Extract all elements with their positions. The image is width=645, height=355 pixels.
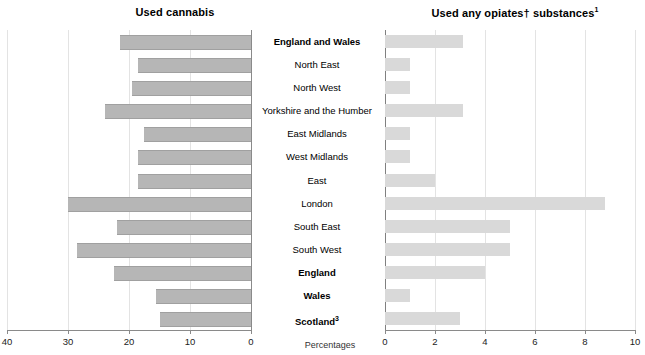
category-label: Yorkshire and the Humber xyxy=(253,105,381,116)
right-axis-tick-label: 0 xyxy=(370,336,400,347)
left-bar xyxy=(117,220,251,235)
left-gridline-20 xyxy=(129,30,130,330)
right-axis-tick-label: 6 xyxy=(520,336,550,347)
left-axis-tick-30 xyxy=(68,330,69,334)
left-axis-tick-label: 40 xyxy=(0,336,22,347)
right-axis-line xyxy=(385,330,635,331)
right-gridline-10 xyxy=(635,30,636,330)
right-bar xyxy=(385,243,510,256)
right-plot-area xyxy=(385,30,635,330)
right-axis-tick-label: 2 xyxy=(420,336,450,347)
right-bar xyxy=(385,58,410,71)
left-gridline-30 xyxy=(68,30,69,330)
left-axis-tick-10 xyxy=(190,330,191,334)
right-axis-tick-label: 4 xyxy=(470,336,500,347)
right-axis-tick-10 xyxy=(635,330,636,334)
right-bar xyxy=(385,81,410,94)
category-label-text: Yorkshire and the Humber xyxy=(262,105,372,116)
left-bar xyxy=(68,197,251,212)
right-panel-title-superscript: 1 xyxy=(594,6,598,13)
right-axis-tick-0 xyxy=(385,330,386,334)
category-label: North West xyxy=(253,82,381,93)
left-bar xyxy=(77,243,251,258)
left-bar xyxy=(156,289,251,304)
category-label: England and Wales xyxy=(253,36,381,47)
right-axis-tick-4 xyxy=(485,330,486,334)
category-label-text: Scotland xyxy=(295,316,335,327)
left-axis-tick-label: 20 xyxy=(114,336,144,347)
right-bar xyxy=(385,174,435,187)
left-bar xyxy=(114,266,251,281)
left-bar xyxy=(105,104,251,119)
right-panel-title-text: Used any opiates† substances xyxy=(432,7,595,19)
left-axis-tick-label: 0 xyxy=(236,336,266,347)
left-bar xyxy=(144,127,251,142)
left-bar xyxy=(120,35,251,50)
right-gridline-8 xyxy=(585,30,586,330)
right-bar xyxy=(385,266,485,279)
left-bar xyxy=(138,150,251,165)
left-gridline-0 xyxy=(251,30,252,330)
right-gridline-4 xyxy=(485,30,486,330)
left-axis-tick-40 xyxy=(7,330,8,334)
category-label: East Midlands xyxy=(253,128,381,139)
category-label: South West xyxy=(253,244,381,255)
left-axis-tick-label: 30 xyxy=(53,336,83,347)
left-axis-tick-label: 10 xyxy=(175,336,205,347)
category-label: England xyxy=(253,267,381,278)
right-axis-tick-8 xyxy=(585,330,586,334)
right-panel-title: Used any opiates† substances1 xyxy=(390,6,640,19)
category-label-text: South West xyxy=(293,244,342,255)
category-label-text: East Midlands xyxy=(287,128,347,139)
right-axis-tick-label: 8 xyxy=(570,336,600,347)
right-axis-tick-2 xyxy=(435,330,436,334)
left-plot-area xyxy=(7,30,251,330)
category-label-column: England and WalesNorth EastNorth WestYor… xyxy=(253,30,383,330)
right-bar xyxy=(385,35,463,48)
category-label: West Midlands xyxy=(253,151,381,162)
left-bar xyxy=(138,174,251,189)
right-bar xyxy=(385,312,460,325)
category-label-text: England xyxy=(298,267,335,278)
right-bar xyxy=(385,150,410,163)
category-label: Wales xyxy=(253,290,381,301)
category-label-text: North East xyxy=(295,59,340,70)
right-bar xyxy=(385,104,463,117)
right-bar xyxy=(385,220,510,233)
category-label: East xyxy=(253,175,381,186)
right-bar xyxy=(385,197,605,210)
category-label-text: Wales xyxy=(303,290,330,301)
category-label-text: London xyxy=(301,198,333,209)
category-label: South East xyxy=(253,221,381,232)
right-axis-tick-6 xyxy=(535,330,536,334)
left-gridline-40 xyxy=(7,30,8,330)
category-label: Scotland3 xyxy=(253,313,381,327)
left-bar xyxy=(132,81,251,96)
category-label: North East xyxy=(253,59,381,70)
category-label-text: East xyxy=(307,175,326,186)
left-panel-title: Used cannabis xyxy=(85,6,265,18)
right-axis-tick-label: 10 xyxy=(620,336,645,347)
category-label-text: England and Wales xyxy=(274,36,361,47)
right-gridline-2 xyxy=(435,30,436,330)
right-gridline-6 xyxy=(535,30,536,330)
left-bar xyxy=(160,312,252,327)
right-bar xyxy=(385,127,410,140)
category-label-superscript: 3 xyxy=(335,315,339,322)
category-label-text: West Midlands xyxy=(286,151,348,162)
category-label-text: North West xyxy=(293,82,340,93)
percentages-axis-label: Percentages xyxy=(280,340,380,350)
category-label-text: South East xyxy=(294,221,340,232)
right-bar xyxy=(385,289,410,302)
category-label: London xyxy=(253,198,381,209)
left-bar xyxy=(138,58,251,73)
left-axis-tick-20 xyxy=(129,330,130,334)
left-axis-tick-0 xyxy=(251,330,252,334)
